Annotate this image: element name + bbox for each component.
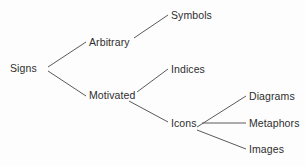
tree-edge-signs-arbitrary xyxy=(48,42,86,67)
edge-layer xyxy=(0,0,305,166)
tree-edge-signs-motivated xyxy=(48,71,86,96)
tree-node-arbitrary: Arbitrary xyxy=(89,36,130,48)
tree-node-indices: Indices xyxy=(171,63,205,75)
tree-node-icons: Icons xyxy=(171,117,197,129)
tree-node-motivated: Motivated xyxy=(89,89,135,101)
tree-node-symbols: Symbols xyxy=(171,9,212,21)
tree-edge-motivated-indices xyxy=(137,69,168,92)
tree-edge-arbitrary-symbols xyxy=(134,15,168,38)
edges-group xyxy=(48,15,246,149)
taxonomy-tree-diagram: SignsArbitraryMotivatedSymbolsIndicesIco… xyxy=(0,0,305,166)
tree-edge-icons-diagrams xyxy=(197,96,246,127)
tree-node-images: Images xyxy=(249,143,284,155)
tree-edge-motivated-icons xyxy=(129,101,168,122)
tree-edge-icons-images xyxy=(197,130,246,149)
tree-node-diagrams: Diagrams xyxy=(249,90,295,102)
tree-node-metaphors: Metaphors xyxy=(249,117,300,129)
tree-node-signs: Signs xyxy=(10,62,37,74)
